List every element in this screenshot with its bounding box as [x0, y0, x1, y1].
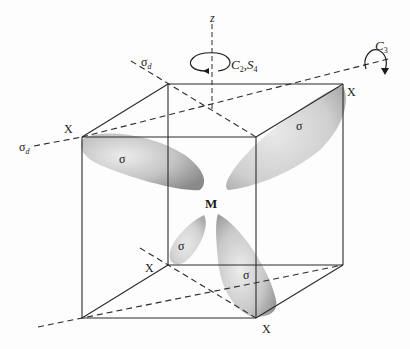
sigma-lobe-lower-left	[170, 215, 206, 264]
symmetry-lines	[34, 24, 392, 327]
ligand-x-back-top-right: X	[347, 85, 356, 99]
sigma-lobe-label-lower-right: σ	[243, 268, 250, 282]
sigma-d-label-top: σd	[141, 55, 152, 71]
sigma-lobe-label-upper-left: σ	[119, 152, 126, 166]
c2-s4-rotation-icon	[191, 53, 230, 74]
c2-s4-label: C2,S4	[231, 57, 257, 74]
ligand-x-front-top-left: X	[64, 122, 73, 136]
sigma-lobe-upper-left	[81, 133, 204, 190]
diagram-canvas: z C2,S4 C3 σd σd X X X X M σ σ σ σ	[0, 0, 410, 349]
sigma-d-plane-line-top	[131, 61, 256, 137]
sigma-lobe-upper-right	[226, 86, 346, 190]
ligand-x-front-bottom-right: X	[262, 322, 271, 336]
sigma-d-label-left: σd	[19, 140, 30, 156]
sigma-lobe-label-lower-left: σ	[178, 239, 185, 253]
ligand-x-back-bottom-left: X	[145, 261, 154, 275]
sigma-lobe-label-upper-right: σ	[296, 119, 303, 133]
z-axis-label: z	[209, 11, 215, 25]
sigma-d-plane-line-left	[34, 137, 82, 146]
cube-symmetry-diagram: z C2,S4 C3 σd σd X X X X M σ σ σ σ	[0, 0, 410, 349]
c3-label: C3	[375, 38, 388, 55]
metal-center-label: M	[205, 196, 217, 211]
